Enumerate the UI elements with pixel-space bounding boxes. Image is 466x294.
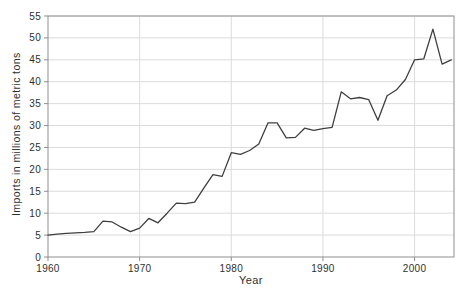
x-tick-label: 1990 <box>311 263 335 274</box>
y-tick-label: 5 <box>35 230 41 241</box>
y-tick-label: 10 <box>29 208 41 219</box>
plot-frame <box>48 16 454 257</box>
y-tick-label: 55 <box>29 11 41 22</box>
x-tick-label: 2000 <box>403 263 427 274</box>
y-tick-label: 50 <box>29 32 41 43</box>
y-tick-label: 35 <box>29 98 41 109</box>
y-tick-label: 40 <box>29 76 41 87</box>
x-tick-label: 1970 <box>128 263 152 274</box>
y-tick-label: 30 <box>29 120 41 131</box>
y-tick-label: 0 <box>35 252 41 263</box>
y-tick-label: 15 <box>29 186 41 197</box>
chart-canvas: 0510152025303540455055196019701980199020… <box>0 0 466 294</box>
x-tick-label: 1960 <box>36 263 60 274</box>
y-tick-label: 25 <box>29 142 41 153</box>
y-axis-title: Imports in millions of metric tons <box>10 56 22 216</box>
x-axis-title: Year <box>48 274 454 286</box>
y-tick-label: 45 <box>29 54 41 65</box>
x-tick-label: 1980 <box>220 263 244 274</box>
imports-line-chart: 0510152025303540455055196019701980199020… <box>0 0 466 294</box>
y-tick-label: 20 <box>29 164 41 175</box>
